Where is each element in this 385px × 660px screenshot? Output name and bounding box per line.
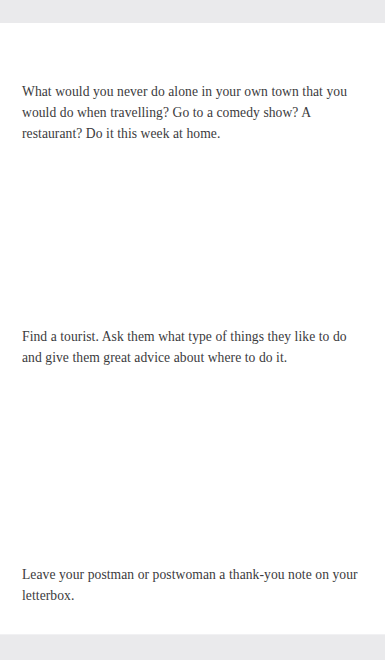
top-chrome-band [0,0,385,24]
tip-paragraph-1: What would you never do alone in your ow… [22,81,360,144]
bottom-chrome-band [0,634,385,660]
tip-paragraph-3: Leave your postman or postwoman a thank-… [22,564,360,606]
tip-paragraph-2: Find a tourist. Ask them what type of th… [22,326,360,368]
page-canvas: What would you never do alone in your ow… [0,0,385,660]
document-sheet: What would you never do alone in your ow… [0,23,385,635]
